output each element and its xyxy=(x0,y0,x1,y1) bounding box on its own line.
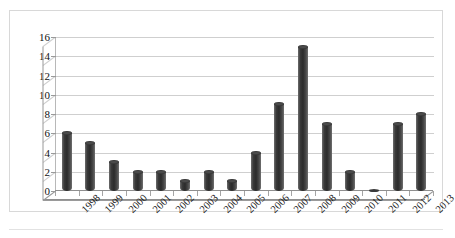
bar[interactable] xyxy=(393,124,403,191)
y-axis-tick-label: 14 xyxy=(22,51,50,61)
bar[interactable] xyxy=(133,172,143,191)
y-axis-tick-mark xyxy=(51,95,56,96)
bar-body xyxy=(156,172,166,191)
plot-area: 0246810121416 xyxy=(10,11,444,213)
y-axis-tick-label: 2 xyxy=(22,167,50,177)
x-axis-category-label: 2010 xyxy=(363,192,386,215)
bar[interactable] xyxy=(298,47,308,191)
bar-body xyxy=(133,172,143,191)
x-axis-category-labels: 1998199920002001200220032004200520062007… xyxy=(0,190,455,238)
x-axis-category-label: 2002 xyxy=(174,192,197,215)
y-axis-tick-mark xyxy=(51,37,56,38)
bar[interactable] xyxy=(416,114,426,191)
x-axis-category-label: 2012 xyxy=(410,192,433,215)
bar-body xyxy=(251,153,261,192)
bar[interactable] xyxy=(156,172,166,191)
x-axis-category-label: 2011 xyxy=(386,192,409,215)
axis-depth-edge xyxy=(43,47,44,201)
bar-body xyxy=(274,104,284,191)
x-axis-category-label: 2009 xyxy=(339,192,362,215)
bar-series xyxy=(55,37,433,191)
x-axis-category-label: 2003 xyxy=(197,192,220,215)
x-axis-category-label: 2001 xyxy=(150,192,173,215)
chart-frame: 0246810121416 xyxy=(9,10,443,212)
bar[interactable] xyxy=(345,172,355,191)
x-axis-category-label: 2000 xyxy=(126,192,149,215)
y-axis-tick-mark xyxy=(51,133,56,134)
bar-body xyxy=(416,114,426,191)
y-axis-tick-label: 16 xyxy=(22,32,50,42)
y-axis-tick-label: 8 xyxy=(22,109,50,119)
bar-top-cap xyxy=(322,122,332,126)
bar-top-cap xyxy=(345,170,355,174)
y-axis-tick-mark xyxy=(51,56,56,57)
bar[interactable] xyxy=(274,104,284,191)
bar-body xyxy=(62,133,72,191)
y-axis-tick-mark xyxy=(51,76,56,77)
bar[interactable] xyxy=(322,124,332,191)
bar[interactable] xyxy=(109,162,119,191)
bar[interactable] xyxy=(62,133,72,191)
y-axis-tick-mark xyxy=(51,114,56,115)
y-axis-tick-label: 4 xyxy=(22,148,50,158)
x-axis-category-label: 1999 xyxy=(103,192,126,215)
bar-body xyxy=(204,172,214,191)
x-axis-category-label: 2007 xyxy=(292,192,315,215)
bar-body xyxy=(298,47,308,191)
y-axis-tick-mark xyxy=(51,153,56,154)
bottom-rule xyxy=(9,229,443,230)
x-axis-category-label: 2005 xyxy=(244,192,267,215)
bar-body xyxy=(85,143,95,191)
y-axis-tick-label: 12 xyxy=(22,71,50,81)
x-axis-category-label: 2008 xyxy=(315,192,338,215)
x-axis-category-label: 2013 xyxy=(433,192,455,215)
bar-body xyxy=(322,124,332,191)
bar-body xyxy=(393,124,403,191)
bar[interactable] xyxy=(204,172,214,191)
x-axis-category-label: 1998 xyxy=(79,192,102,215)
bar-top-cap xyxy=(298,45,308,49)
y-axis-tick-mark xyxy=(51,172,56,173)
bar-top-cap xyxy=(393,122,403,126)
bar[interactable] xyxy=(85,143,95,191)
x-axis-category-label: 2004 xyxy=(221,192,244,215)
bar-top-cap xyxy=(133,170,143,174)
bar-top-cap xyxy=(251,151,261,155)
bar-top-cap xyxy=(156,170,166,174)
bar[interactable] xyxy=(251,153,261,192)
bar-body xyxy=(109,162,119,191)
x-axis-category-label: 2006 xyxy=(268,192,291,215)
y-axis-tick-label: 10 xyxy=(22,90,50,100)
y-axis-tick-label: 6 xyxy=(22,128,50,138)
bar-top-cap xyxy=(204,170,214,174)
y-axis-tick-labels: 0246810121416 xyxy=(16,11,50,213)
bar-body xyxy=(345,172,355,191)
